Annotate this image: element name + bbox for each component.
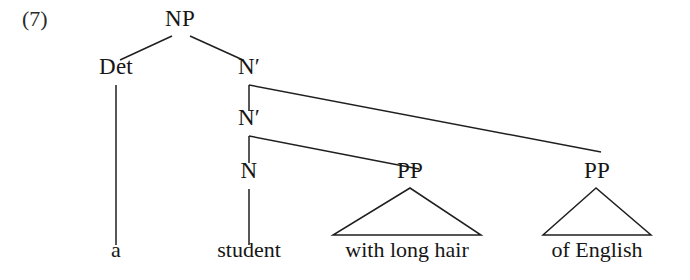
node-label-np: NP: [165, 7, 195, 30]
syntax-tree-figure: (7) NPDetN′N′NPPPP astudentwith long hai…: [0, 0, 690, 280]
node-label-pp2: PP: [584, 159, 610, 182]
node-label-nbar1: N′: [238, 55, 260, 78]
tree-edge-nbar1-pp2: [249, 85, 601, 152]
node-label-n: N: [241, 159, 258, 182]
tree-edge-np-nbar1: [190, 36, 243, 60]
terminal-label-a: a: [111, 239, 121, 261]
node-label-det: Det: [99, 55, 133, 78]
edge-group: [116, 36, 601, 245]
terminal-label-phrase1: with long hair: [345, 239, 468, 261]
node-label-pp1: PP: [397, 159, 423, 182]
triangle-pp1: [333, 188, 481, 235]
triangle-pp2: [543, 188, 651, 235]
terminal-label-phrase2: of English: [551, 239, 642, 261]
triangle-group: [333, 188, 651, 235]
terminal-label-student: student: [217, 239, 281, 261]
node-label-nbar2: N′: [238, 106, 260, 129]
tree-edge-nbar2-pp1: [249, 136, 419, 169]
